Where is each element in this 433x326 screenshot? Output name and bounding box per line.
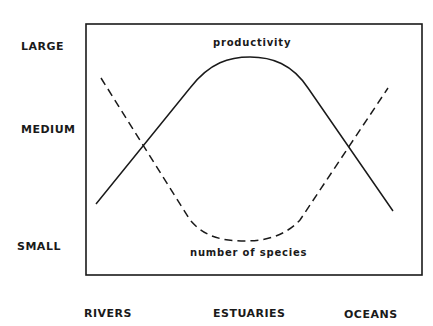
x-label-oceans: OCEANS [344, 308, 398, 321]
species-curve [101, 78, 388, 241]
productivity-curve [96, 57, 393, 211]
diagram-plot [0, 0, 433, 326]
x-label-rivers: RIVERS [84, 307, 132, 320]
plot-frame [86, 24, 422, 275]
species-label: number of species [190, 247, 307, 258]
productivity-label: productivity [213, 37, 291, 48]
x-label-estuaries: ESTUARIES [213, 307, 286, 320]
